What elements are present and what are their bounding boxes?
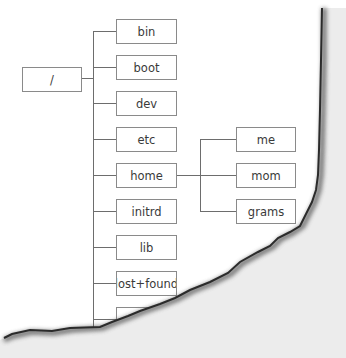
torn-paper-edge	[0, 0, 346, 358]
directory-tree-diagram: / bin boot dev etc home initrd lib lost+…	[0, 0, 346, 358]
